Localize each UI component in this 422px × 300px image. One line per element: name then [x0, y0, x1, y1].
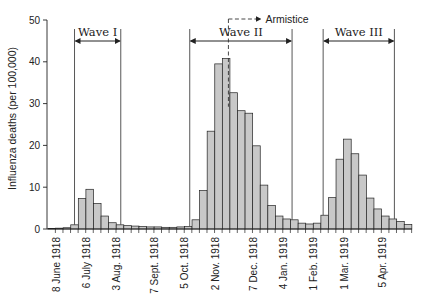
bar: [351, 154, 359, 229]
bar: [207, 131, 215, 229]
x-tick-label: 6 July 1918: [81, 237, 92, 289]
x-tick-label: 5 Apr. 1919: [377, 237, 388, 288]
y-tick-label: 20: [29, 140, 41, 151]
y-tick-label: 40: [29, 56, 41, 67]
influenza-deaths-chart: 01020304050Influenza deaths (per 100,000…: [0, 0, 422, 300]
bar: [78, 198, 86, 229]
bar: [245, 113, 253, 229]
y-tick-label: 50: [29, 15, 41, 26]
bar: [283, 219, 291, 229]
bar: [328, 198, 336, 229]
bar: [192, 220, 200, 229]
y-tick-label: 30: [29, 98, 41, 109]
y-axis: 01020304050Influenza deaths (per 100,000…: [6, 15, 47, 235]
armistice-label: Armistice: [265, 13, 308, 25]
bar: [109, 223, 117, 229]
bar: [336, 159, 344, 229]
x-tick-label: 7 Dec. 1918: [248, 237, 259, 291]
x-tick-label: 7 Sept. 1918: [149, 237, 160, 294]
bar: [93, 204, 101, 229]
x-axis: 8 June 19186 July 19183 Aug. 19187 Sept.…: [47, 229, 412, 294]
bar: [404, 224, 412, 229]
bar: [291, 220, 299, 229]
x-tick-label: 1 Feb. 1919: [308, 237, 319, 291]
bar: [298, 223, 306, 229]
bar: [374, 209, 382, 229]
bars: [48, 58, 412, 229]
x-tick-label: 5 Oct. 1918: [179, 237, 190, 289]
bar: [344, 139, 352, 229]
bar: [397, 221, 405, 229]
bar: [253, 146, 261, 229]
bar: [260, 185, 268, 229]
bar: [71, 225, 79, 229]
y-tick-label: 10: [29, 182, 41, 193]
bar: [238, 111, 246, 229]
wave-label: Wave III: [335, 25, 383, 39]
wave-label: Wave I: [78, 25, 117, 39]
bar: [86, 189, 94, 229]
bar: [366, 198, 374, 229]
wave-label: Wave II: [219, 25, 263, 39]
bar: [200, 191, 208, 229]
bar: [230, 93, 238, 229]
bar: [275, 216, 283, 229]
y-tick-label: 0: [34, 224, 40, 235]
bar: [313, 223, 321, 229]
x-tick-label: 3 Aug. 1918: [111, 237, 122, 291]
x-tick-label: 2 Nov. 1918: [210, 237, 221, 291]
x-tick-label: 1 Mar. 1919: [339, 237, 350, 290]
y-axis-label: Influenza deaths (per 100,000): [6, 47, 18, 190]
bar: [124, 226, 132, 229]
bar: [321, 215, 329, 229]
bar: [382, 216, 390, 229]
x-tick-label: 4 Jan. 1919: [278, 237, 289, 290]
bar: [359, 175, 367, 229]
bar: [116, 225, 124, 229]
bar: [389, 219, 397, 229]
bar: [306, 224, 314, 229]
bar: [101, 216, 109, 229]
bar: [215, 64, 223, 229]
bar: [268, 206, 276, 229]
x-tick-label: 8 June 1918: [51, 237, 62, 292]
